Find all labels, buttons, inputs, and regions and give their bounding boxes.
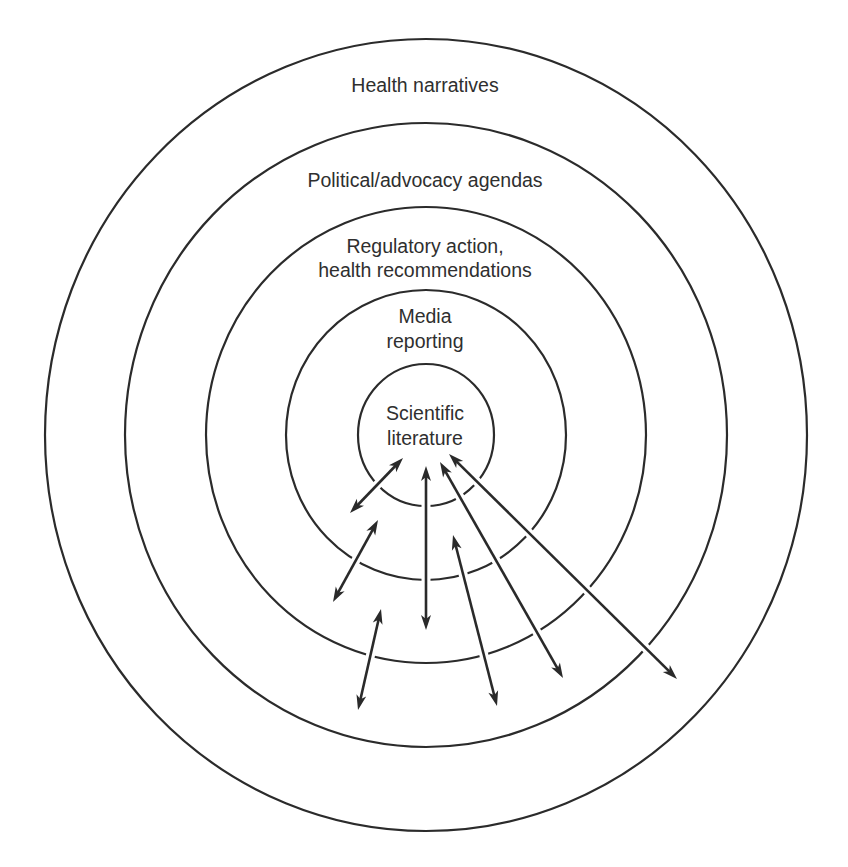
arrow-3-double-arrow-icon — [421, 466, 431, 630]
label-regulatory-line-1: Regulatory action, — [346, 235, 503, 257]
label-media-line-1: Media — [398, 305, 451, 327]
arrow-2-double-arrow-icon — [333, 520, 378, 602]
arrow-shaft — [360, 617, 379, 702]
arrow-4-double-arrow-icon — [357, 609, 383, 710]
arrow-shaft — [337, 527, 374, 595]
label-scientific-literature-line-2: literature — [387, 427, 463, 449]
label-health-narratives-line-1: Health narratives — [351, 74, 499, 96]
labels-layer: Health narrativesPolitical/advocacy agen… — [307, 74, 542, 449]
concentric-diagram: Health narrativesPolitical/advocacy agen… — [0, 0, 848, 867]
label-political-advocacy-line-1: Political/advocacy agendas — [307, 169, 542, 191]
arrow-1-double-arrow-icon — [350, 458, 403, 513]
label-regulatory-line-2: health recommendations — [318, 259, 532, 281]
label-media-line-2: reporting — [387, 330, 464, 352]
arrow-shaft — [455, 543, 495, 699]
label-scientific-literature-line-1: Scientific — [386, 402, 464, 424]
arrow-shaft — [356, 464, 398, 507]
